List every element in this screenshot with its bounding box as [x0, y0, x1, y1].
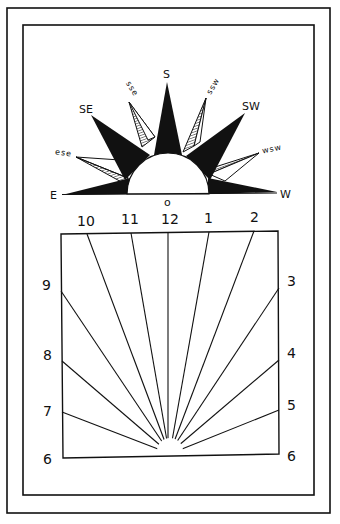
hour-label-12: 12 — [161, 211, 179, 227]
hour-label-3: 3 — [287, 273, 296, 289]
label-e: E — [50, 189, 57, 202]
hour-line-11 — [131, 233, 167, 441]
label-s: S — [163, 68, 170, 81]
hour-line-8 — [62, 361, 161, 446]
compass-point-e — [62, 178, 130, 195]
hour-line-4 — [178, 360, 279, 446]
compass-point-sse — [129, 102, 155, 147]
hour-label-8: 8 — [43, 347, 52, 363]
hour-label-6-right: 6 — [287, 448, 296, 464]
label-w: W — [280, 188, 291, 201]
sundial-face: 10 11 12 1 2 9 8 7 6 3 4 5 6 — [42, 209, 296, 467]
hour-lines — [61, 231, 279, 449]
compass-point-ssw — [183, 98, 206, 152]
hour-label-10: 10 — [77, 213, 95, 229]
hour-line-3 — [176, 288, 279, 443]
label-sse: sse — [124, 80, 140, 99]
hour-label-5: 5 — [287, 397, 296, 413]
label-se: SE — [79, 103, 93, 116]
label-sw: SW — [242, 100, 260, 113]
hour-line-1 — [172, 232, 209, 441]
hour-label-11: 11 — [121, 211, 139, 227]
hour-label-1: 1 — [204, 210, 213, 226]
hour-label-9: 9 — [42, 277, 51, 293]
label-ese: ese — [54, 147, 72, 158]
label-ssw: ssw — [205, 76, 222, 96]
hour-label-2: 2 — [250, 209, 259, 225]
hour-label-6-left: 6 — [43, 451, 52, 467]
hour-line-9 — [61, 291, 163, 443]
sundial-illustration: E ese SE sse S ssw SW wsw W o 10 11 1 — [0, 0, 340, 524]
label-wsw: wsw — [261, 142, 283, 155]
hour-label-4: 4 — [287, 345, 296, 361]
compass-rose: E ese SE sse S ssw SW wsw W o — [50, 68, 291, 209]
hour-line-2 — [174, 231, 254, 442]
compass-point-w — [208, 178, 277, 194]
compass-point-s — [154, 82, 182, 155]
center-marker: o — [164, 196, 171, 209]
hour-label-7: 7 — [43, 403, 52, 419]
hour-line-10 — [87, 234, 165, 442]
